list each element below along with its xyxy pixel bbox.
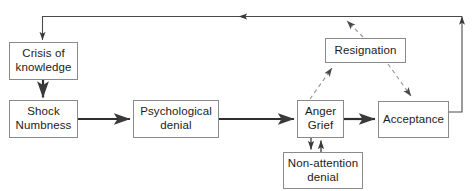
node-nonattention-line-1: Non-attention xyxy=(288,157,358,171)
edge-resignation-to-acceptance-dashed xyxy=(388,64,411,96)
node-shock-line-2: Numbness xyxy=(16,119,72,133)
edge-acceptance-to-crisis xyxy=(43,17,463,113)
node-crisis-line-2: knowledge xyxy=(16,61,72,75)
node-resignation[interactable]: Resignation xyxy=(325,38,406,63)
node-shock-line-1: Shock xyxy=(16,105,72,119)
edge-anger-to-resignation-dashed xyxy=(310,68,332,99)
node-psychological-line-1: Psychological xyxy=(140,105,212,119)
node-psychological-line-2: denial xyxy=(140,119,212,133)
node-shock-numbness[interactable]: Shock Numbness xyxy=(9,100,78,138)
node-psychological-denial[interactable]: Psychological denial xyxy=(133,100,219,138)
node-resignation-label: Resignation xyxy=(335,44,397,58)
diagram-canvas: Crisis of knowledge Shock Numbness Psych… xyxy=(0,0,474,191)
node-anger-line-1: Anger xyxy=(305,105,336,119)
node-acceptance[interactable]: Acceptance xyxy=(378,101,449,138)
node-anger-grief[interactable]: Anger Grief xyxy=(297,100,344,138)
diagram-connectors xyxy=(0,0,474,191)
node-anger-line-2: Grief xyxy=(305,119,336,133)
node-nonattention-line-2: denial xyxy=(288,171,358,185)
node-non-attention-denial[interactable]: Non-attention denial xyxy=(283,152,363,189)
node-crisis-of-knowledge[interactable]: Crisis of knowledge xyxy=(9,42,78,80)
node-crisis-line-1: Crisis of xyxy=(16,47,72,61)
edge-resignation-to-top-rail-dashed xyxy=(347,21,363,37)
node-acceptance-label: Acceptance xyxy=(383,113,444,127)
